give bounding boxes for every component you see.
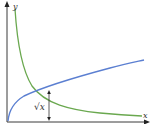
sqrt-label: √x: [34, 102, 45, 112]
x-axis-arrow-icon: [144, 120, 150, 125]
axes: [5, 1, 151, 124]
diagram: √x y x: [0, 0, 151, 124]
sqrt-curve: [8, 60, 144, 121]
sqrt-annotation: √x: [34, 90, 51, 121]
x-axis-label: x: [143, 111, 148, 120]
y-axis-arrow-icon: [5, 1, 10, 7]
reciprocal-curve: [15, 9, 142, 116]
arrow-up-icon: [47, 90, 51, 94]
y-axis-label: y: [12, 2, 18, 11]
arrow-down-icon: [47, 117, 51, 121]
